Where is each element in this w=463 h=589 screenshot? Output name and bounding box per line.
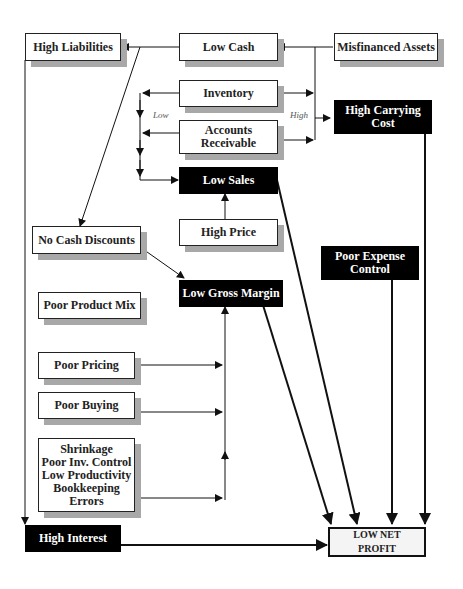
node-inventory: Inventory: [179, 80, 278, 107]
diagram-canvas: High Liabilities Low Cash Misfinanced As…: [0, 0, 463, 589]
node-high-carrying-cost: High Carrying Cost: [334, 100, 432, 134]
node-shrinkage-group: Shrinkage Poor Inv. Control Low Producti…: [38, 438, 135, 512]
label-high: High: [290, 110, 308, 120]
node-low-cash: Low Cash: [179, 33, 278, 61]
label-low: Low: [153, 110, 169, 120]
node-high-liabilities: High Liabilities: [25, 33, 121, 61]
node-poor-expense-control: Poor Expense Control: [321, 246, 419, 280]
node-low-gross-margin: Low Gross Margin: [179, 280, 283, 307]
node-low-sales: Low Sales: [179, 167, 278, 194]
node-accounts-receivable: Accounts Receivable: [179, 120, 278, 154]
node-poor-pricing: Poor Pricing: [38, 352, 135, 379]
node-low-net-profit: LOW NET PROFIT: [328, 527, 426, 557]
node-high-price: High Price: [179, 219, 278, 246]
node-high-interest: High Interest: [25, 525, 121, 552]
node-poor-product-mix: Poor Product Mix: [38, 292, 141, 319]
node-poor-buying: Poor Buying: [38, 392, 135, 419]
node-misfinanced-assets: Misfinanced Assets: [334, 33, 438, 61]
node-no-cash-discounts: No Cash Discounts: [32, 226, 141, 254]
